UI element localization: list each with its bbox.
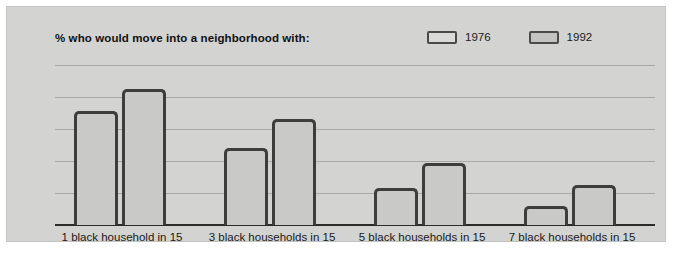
bar-1992-group-2 — [272, 119, 316, 225]
plot-area: 020406080100 — [55, 65, 655, 225]
legend-item-1976: 1976 — [427, 31, 491, 44]
bar-1992-group-4 — [572, 185, 616, 225]
bar-1976-group-4 — [524, 206, 568, 225]
bar-1976-group-2 — [224, 148, 268, 225]
bar-1992-group-1 — [122, 89, 166, 225]
bar-1976-group-3 — [374, 188, 418, 225]
x-axis-label-group-4: 7 black households in 15 — [509, 231, 636, 243]
bar-1992-group-3 — [422, 163, 466, 225]
bar-1976-group-1 — [74, 111, 118, 225]
legend-swatch-1992 — [529, 31, 559, 44]
chart-figure: % who would move into a neighborhood wit… — [0, 0, 673, 256]
chart-panel: % who would move into a neighborhood wit… — [6, 6, 666, 242]
x-axis-label-group-2: 3 black households in 15 — [209, 231, 336, 243]
x-axis-label-group-1: 1 black household in 15 — [62, 231, 183, 243]
x-axis-label-group-3: 5 black households in 15 — [359, 231, 486, 243]
chart-title: % who would move into a neighborhood wit… — [55, 32, 310, 44]
gridline — [55, 65, 655, 66]
chart-legend: 1976 1992 — [427, 28, 592, 46]
legend-label-1976: 1976 — [465, 31, 491, 43]
legend-label-1992: 1992 — [567, 31, 593, 43]
legend-swatch-1976 — [427, 31, 457, 44]
legend-item-1992: 1992 — [529, 31, 593, 44]
